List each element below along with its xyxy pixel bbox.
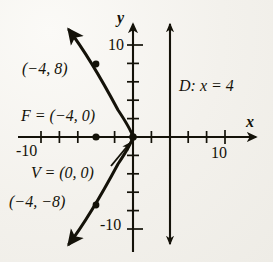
axis-label-y: y	[117, 10, 124, 26]
label-directrix: D: x = 4	[179, 78, 234, 94]
focus-marker	[92, 133, 99, 140]
tick-label-x-ten: 10	[211, 145, 227, 161]
point-lower-marker	[93, 202, 100, 209]
coordinate-plane-graphic	[0, 0, 273, 262]
vertex-marker	[129, 133, 137, 141]
point-upper-marker	[93, 61, 100, 68]
parabola-figure: (−4, 8) F = (−4, 0) V = (0, 0) (−4, −8) …	[0, 0, 273, 262]
x-axis	[18, 130, 256, 144]
label-vertex: V = (0, 0)	[31, 165, 94, 181]
tick-label-y-ten: 10	[108, 37, 124, 53]
axis-label-x: x	[246, 114, 254, 130]
label-point-upper: (−4, 8)	[22, 61, 67, 77]
tick-label-y-negative-ten: -10	[100, 217, 121, 233]
tick-label-x-negative-ten: -10	[16, 143, 37, 159]
label-focus: F = (−4, 0)	[21, 108, 95, 124]
label-point-lower: (−4, −8)	[9, 194, 65, 210]
